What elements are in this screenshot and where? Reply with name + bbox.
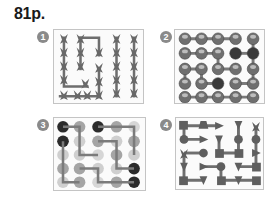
page-title: 81p. xyxy=(14,5,45,23)
shape-grid-4 xyxy=(176,118,263,189)
butterfly-grid-1 xyxy=(54,30,143,103)
dot-grid-3 xyxy=(54,118,145,190)
puzzle-panel-4 xyxy=(175,117,264,190)
puzzle-number-badge-2: 2 xyxy=(160,31,172,43)
puzzle-panel-1 xyxy=(53,29,144,104)
ball-grid-2 xyxy=(175,30,264,103)
puzzle-number-badge-3: 3 xyxy=(37,119,49,131)
puzzle-panel-3 xyxy=(53,117,146,191)
puzzle-number-badge-1: 1 xyxy=(37,31,49,43)
puzzle-number-badge-4: 4 xyxy=(160,119,172,131)
puzzle-panel-2 xyxy=(174,29,265,104)
